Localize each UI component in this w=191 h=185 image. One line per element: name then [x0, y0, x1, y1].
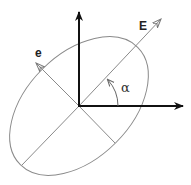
- E-vector-arrow: [79, 19, 161, 106]
- e-label: e: [35, 46, 42, 60]
- alpha-label: α: [121, 80, 130, 95]
- e-vector-arrow: [36, 63, 79, 106]
- angle-alpha-arc: [108, 80, 118, 106]
- minor-axis-line: [79, 106, 115, 143]
- E-label: E: [139, 19, 147, 33]
- polarization-ellipse-diagram: E e α: [0, 0, 191, 185]
- major-axis-line: [22, 106, 79, 165]
